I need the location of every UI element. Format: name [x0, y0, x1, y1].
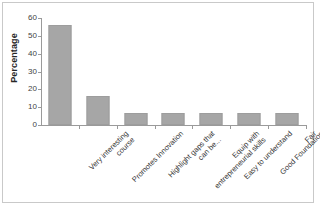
- chart-frame: Percentage 6050403020100 Very interestin…: [2, 2, 314, 203]
- bar-slot: [268, 18, 306, 125]
- y-axis-tick-label: 20: [19, 85, 37, 93]
- bar[interactable]: [48, 25, 71, 125]
- y-axis-tick-label: 50: [19, 32, 37, 40]
- bar-slot: [155, 18, 193, 125]
- bar-slot: [230, 18, 268, 125]
- bar[interactable]: [162, 113, 185, 125]
- bar[interactable]: [124, 113, 147, 125]
- y-axis-tick-label: 30: [19, 68, 37, 76]
- x-axis-category-label: Very interestingcourse: [87, 129, 136, 178]
- bar[interactable]: [200, 113, 223, 125]
- y-axis-tick-label: 40: [19, 50, 37, 58]
- plot-area: [41, 18, 306, 125]
- y-axis-tick-labels: 6050403020100: [19, 13, 37, 125]
- x-axis-line: [41, 125, 306, 126]
- bar-slot: [192, 18, 230, 125]
- bar-slot: [41, 18, 79, 125]
- bar[interactable]: [238, 113, 261, 125]
- bar-slot: [117, 18, 155, 125]
- bar-slot: [79, 18, 117, 125]
- y-axis-tick-label: 10: [19, 103, 37, 111]
- x-axis-category-labels: Very interestingcoursePromotes Innovatio…: [3, 127, 315, 201]
- y-axis-tick-label: 60: [19, 14, 37, 22]
- bar[interactable]: [276, 113, 299, 125]
- bar[interactable]: [86, 96, 109, 125]
- bar-series: [41, 18, 306, 125]
